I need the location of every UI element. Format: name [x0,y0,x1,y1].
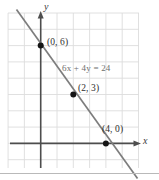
point-0-6 [38,43,44,49]
point-label-2-3: (2, 3) [78,84,99,94]
point-label-0-6: (0, 6) [47,38,68,48]
point-label-4-0: (4, 0) [102,125,123,135]
bottom-divider [0,173,159,174]
point-4-0 [103,140,109,146]
y-axis-label: y [44,2,48,12]
line-6x-plus-4y-equals-24 [17,10,138,179]
x-axis [10,140,141,146]
y-axis [38,11,44,168]
point-2-3 [70,92,76,98]
equation-label: 6x + 4y = 24 [62,64,111,73]
x-axis-label: x [143,136,147,146]
graph-figure: y x (0, 6) (2, 3) (4, 0) 6x + 4y = 24 [0,0,159,180]
